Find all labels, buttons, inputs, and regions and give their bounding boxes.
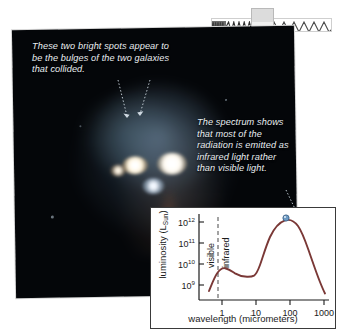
annotation-bulges: These two bright spots appear to be the … [32, 41, 202, 76]
y-axis-title-close: ) [157, 210, 168, 213]
x-ticks [222, 300, 324, 305]
svg-text:1011: 1011 [179, 237, 196, 249]
y-axis-title: luminosity (LSun) [157, 201, 170, 287]
y-axis-title-main: luminosity (L [157, 225, 168, 278]
band-label-infrared: infrared [221, 237, 231, 268]
badge-top-bar [252, 9, 273, 22]
svg-text:1010: 1010 [178, 258, 195, 270]
star-speck [79, 125, 81, 127]
star-speck [51, 216, 54, 219]
spectrum-inset-chart: 1012 1011 1010 109 1 10 100 1000 visible [150, 207, 336, 329]
figure-root: These two bright spots appear to be the … [0, 0, 340, 332]
svg-text:109: 109 [182, 279, 196, 291]
y-ticks [199, 222, 204, 285]
svg-text:1012: 1012 [178, 216, 195, 228]
y-axis-title-sub: Sun [162, 214, 169, 226]
star-speck [225, 99, 227, 101]
annotation-spectrum: The spectrum shows that most of the radi… [197, 117, 309, 175]
chart-svg: 1012 1011 1010 109 1 10 100 1000 visible [151, 208, 335, 328]
peak-marker [283, 215, 289, 221]
band-label-visible: visible [206, 243, 216, 268]
x-axis-title: wavelength (micrometers) [151, 313, 335, 324]
y-tick-labels: 1012 1011 1010 109 [178, 216, 195, 291]
